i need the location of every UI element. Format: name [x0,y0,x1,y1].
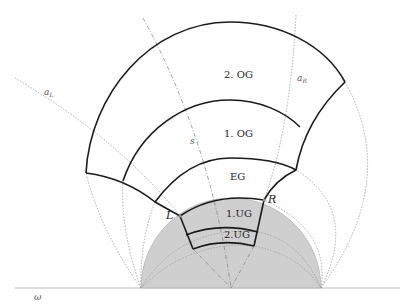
label-eg: EG [230,171,245,182]
label-point-L: L [165,209,173,222]
label-curve-aL: aL [44,87,53,98]
label-point-R: R [267,193,276,206]
right-edge [264,82,345,200]
construction-arc-left-2 [123,181,141,288]
og2-outer-arc [86,22,345,173]
point-L-marker [179,215,182,218]
construction-arc-left-1 [86,173,141,288]
label-ug2: 2.UG [224,229,250,240]
label-baseline-omega: ω [34,292,42,302]
label-og2: 2. OG [224,69,253,80]
label-og1: 1. OG [224,128,253,139]
construction-arc-right-1 [321,82,368,288]
label-ug1: 1.UG [226,208,252,219]
floor-diagram: 2. OG 1. OG EG 1.UG 2.UG L R s aL aR ω [0,0,409,308]
curve-aL [15,78,180,216]
label-curve-s: s [190,136,195,146]
label-curve-aR: aR [297,73,307,84]
point-R-marker [263,199,266,202]
og1-outer-arc [123,100,300,181]
